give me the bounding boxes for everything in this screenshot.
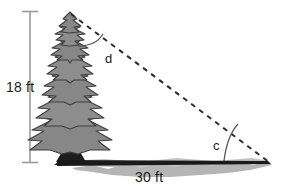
diagram-canvas (0, 0, 281, 188)
tree-height-label: 18 ft (6, 80, 34, 94)
angle-d-label: d (105, 52, 112, 65)
tree-illustration (28, 12, 112, 165)
ground-distance-label: 30 ft (135, 170, 163, 184)
angle-c-label: c (213, 139, 220, 152)
tree-triangle-figure: 18 ft 30 ft d c (0, 0, 281, 188)
